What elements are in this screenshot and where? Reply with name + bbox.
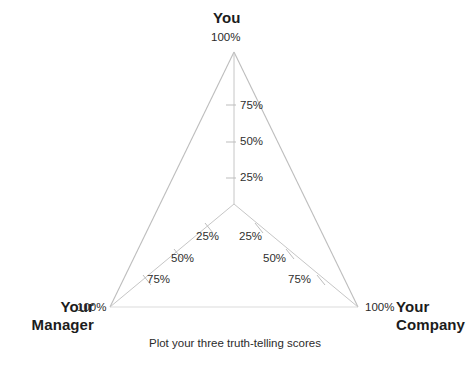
tick-label-company-75: 75% xyxy=(288,273,311,285)
tick-label-manager-75: 75% xyxy=(147,273,170,285)
vertex-label-manager-line2: Manager xyxy=(12,316,94,334)
tick-label-manager-50: 50% xyxy=(171,252,194,264)
tick-label-company-25: 25% xyxy=(239,230,262,242)
triangle-edge-left xyxy=(110,52,234,307)
tick-label-manager-25: 25% xyxy=(196,230,219,242)
vertex-label-you: You xyxy=(213,9,241,27)
vertex-label-company-line2: Company xyxy=(396,316,465,334)
vertex-pct-manager: 100% xyxy=(77,301,106,313)
internal-axes xyxy=(110,52,358,307)
vertex-label-company-line1: Your xyxy=(396,298,429,316)
figure-caption: Plot your three truth-telling scores xyxy=(149,337,321,349)
tick-label-you-75: 75% xyxy=(240,99,263,111)
tick-label-you-25: 25% xyxy=(240,171,263,183)
axis-company xyxy=(234,204,358,307)
tick-label-company-50: 50% xyxy=(263,252,286,264)
vertex-pct-you: 100% xyxy=(211,31,240,43)
vertex-pct-company: 100% xyxy=(365,301,394,313)
tick-label-you-50: 50% xyxy=(240,135,263,147)
ternary-plot-figure: You 100% Your Manager 100% 100% Your Com… xyxy=(0,0,466,365)
